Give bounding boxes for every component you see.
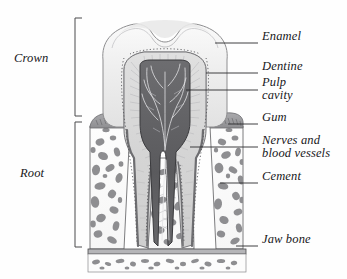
tooth-anatomy-diagram: Crown Root Enamel Dentine Pulp cavity Gu…: [0, 0, 347, 279]
crown-bracket: [75, 18, 82, 116]
bracket-label-crown: Crown: [14, 52, 48, 66]
root-bracket: [75, 122, 82, 247]
callout-label-nerves-line2: blood vessels: [262, 147, 330, 161]
callout-label-enamel: Enamel: [262, 30, 301, 44]
bracket-label-root: Root: [20, 167, 44, 181]
callout-label-gum: Gum: [262, 111, 287, 125]
callout-label-jaw-bone: Jaw bone: [262, 233, 311, 247]
callout-label-cement: Cement: [262, 170, 301, 184]
spongy-bone-band: [88, 254, 246, 272]
callout-label-pulp-line2: cavity: [262, 89, 293, 103]
callout-label-dentine: Dentine: [262, 60, 303, 74]
region-brackets: [75, 18, 82, 247]
cortical-bone-band: [88, 249, 246, 254]
